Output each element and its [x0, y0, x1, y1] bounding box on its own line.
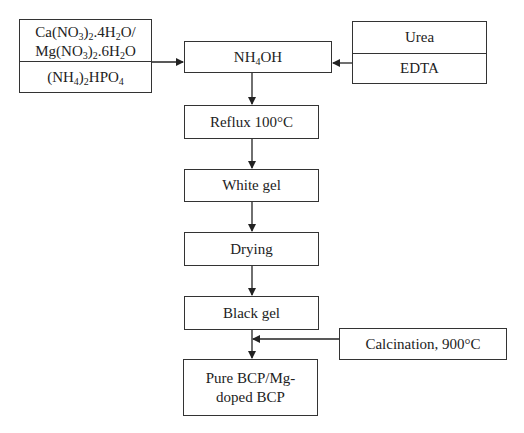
divider [20, 61, 151, 62]
edta-label: EDTA [400, 59, 439, 78]
ammonium-phosphate-label: (NH4)2HPO4 [47, 68, 124, 87]
ammonium-phosphate-cell: (NH4)2HPO4 [20, 63, 151, 92]
urea-label: Urea [405, 28, 434, 47]
step-final-product: Pure BCP/Mg- doped BCP [183, 359, 318, 416]
chelating-agents-box: Urea EDTA [352, 21, 487, 84]
step-nh4oh: NH4OH [184, 41, 332, 73]
final-product-line2: doped BCP [216, 388, 285, 407]
step-drying: Drying [184, 232, 319, 266]
step-reflux-label: Reflux 100°C [210, 113, 293, 132]
magnesium-nitrate-label: Mg(NO3)2.6H2O [35, 42, 135, 61]
urea-cell: Urea [353, 22, 486, 53]
edta-cell: EDTA [353, 54, 486, 83]
final-product-line1: Pure BCP/Mg- [206, 369, 296, 388]
step-black-gel-label: Black gel [223, 304, 280, 323]
precursor-inputs-box: Ca(NO3)2.4H2O/ Mg(NO3)2.6H2O (NH4)2HPO4 [19, 19, 152, 93]
step-reflux: Reflux 100°C [184, 105, 319, 139]
step-white-gel-label: White gel [222, 176, 281, 195]
metal-nitrates-cell: Ca(NO3)2.4H2O/ Mg(NO3)2.6H2O [20, 22, 151, 62]
step-nh4oh-label: NH4OH [234, 48, 282, 67]
step-drying-label: Drying [230, 240, 273, 259]
calcination-box: Calcination, 900°C [339, 328, 507, 360]
calcium-nitrate-label: Ca(NO3)2.4H2O/ [35, 23, 135, 42]
step-white-gel: White gel [184, 169, 319, 202]
calcination-label: Calcination, 900°C [365, 335, 480, 354]
step-black-gel: Black gel [184, 296, 319, 330]
